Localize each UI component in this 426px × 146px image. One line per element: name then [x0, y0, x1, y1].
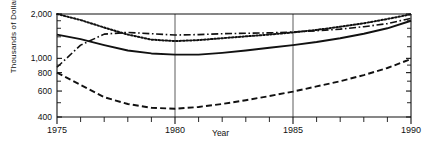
- y-tick-label: 600: [14, 86, 52, 96]
- series-line-series-dash-dot: [57, 18, 411, 67]
- series-line-series-dashed: [57, 59, 411, 109]
- series-line-series-dotted: [57, 14, 411, 41]
- y-tick-label: 1,000: [14, 53, 52, 63]
- x-axis-title: Year: [212, 128, 229, 138]
- x-tick-label: 1985: [273, 125, 313, 135]
- y-tick-label: 800: [14, 68, 52, 78]
- data-series-group: [57, 14, 411, 109]
- x-tick-label: 1990: [391, 125, 426, 135]
- x-tick-label: 1980: [155, 125, 195, 135]
- x-tick-label: 1975: [37, 125, 77, 135]
- y-tick-label: 2,000: [14, 9, 52, 19]
- x-axis-ticks: [57, 117, 411, 124]
- y-tick-label: 400: [14, 112, 52, 122]
